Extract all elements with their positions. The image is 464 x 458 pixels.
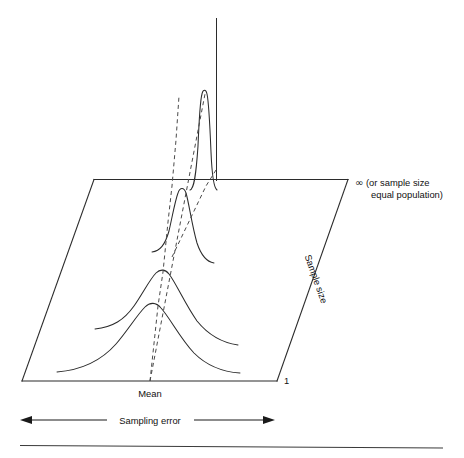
distribution-curve-ninf <box>190 90 217 190</box>
distribution-curve-n2 <box>95 270 238 345</box>
sample-size-min-label: 1 <box>284 375 289 386</box>
mean-axis-label: Mean <box>138 388 161 399</box>
figure-root: ∞ (or sample size equal population) Samp… <box>0 0 464 458</box>
distribution-curve-n1 <box>57 303 240 373</box>
plane-left-edge <box>22 180 94 382</box>
mean-dashed-vertical <box>150 96 179 381</box>
sampling-error-label: Sampling error <box>119 415 180 426</box>
sampling-error-arrow: Sampling error <box>20 415 275 426</box>
infinity-note-line2: equal population) <box>371 189 443 200</box>
distribution-curve-n3 <box>152 189 214 264</box>
infinity-symbol: ∞ <box>355 177 363 188</box>
mean-dashed-depth <box>150 94 205 381</box>
infinity-note-line1: (or sample size <box>366 177 430 188</box>
sampling-error-arrow-right-head <box>263 416 275 424</box>
bottom-rule <box>20 446 443 449</box>
sampling-distribution-figure: ∞ (or sample size equal population) Samp… <box>0 0 464 458</box>
sampling-error-arrow-left-head <box>20 416 32 424</box>
base-plane <box>22 180 348 382</box>
